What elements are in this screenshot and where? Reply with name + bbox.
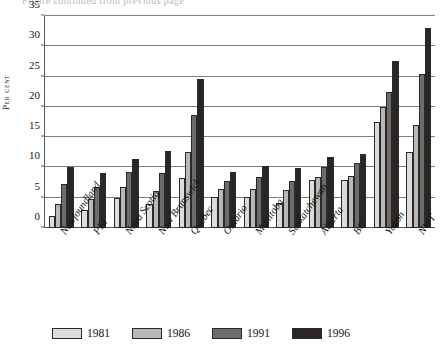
legend-swatch-1996 xyxy=(292,328,322,339)
plot-area: 05101520253035 xyxy=(44,16,434,228)
legend-label-1991: 1991 xyxy=(247,327,270,339)
bars-layer xyxy=(45,16,435,228)
legend-item-1981[interactable]: 1981 xyxy=(52,327,110,339)
bar-group xyxy=(208,16,241,228)
bar[interactable] xyxy=(425,28,431,228)
legend-swatch-1981 xyxy=(52,328,82,339)
clipped-caption-text: Figure continued from previous page xyxy=(22,0,184,6)
x-axis-labels: NewfoundlandPEINova ScotiaNew BrunswickQ… xyxy=(44,230,434,310)
bar-group xyxy=(45,16,78,228)
y-tick-label-35: 35 xyxy=(29,0,40,10)
bar-group xyxy=(338,16,371,228)
legend-label-1981: 1981 xyxy=(87,327,110,339)
legend-swatch-1986 xyxy=(132,328,162,339)
y-tick-label-0: 0 xyxy=(35,210,41,222)
y-tick-label-10: 10 xyxy=(29,149,40,161)
y-tick-label-20: 20 xyxy=(29,89,40,101)
figure-container: Figure continued from previous page Per … xyxy=(0,0,447,355)
legend-item-1986[interactable]: 1986 xyxy=(132,327,190,339)
legend-item-1991[interactable]: 1991 xyxy=(212,327,270,339)
bar-group xyxy=(110,16,143,228)
legend-swatch-1991 xyxy=(212,328,242,339)
y-tick-label-25: 25 xyxy=(29,59,40,71)
y-axis-title: Per cent xyxy=(1,40,11,110)
legend-label-1986: 1986 xyxy=(167,327,190,339)
bar[interactable] xyxy=(360,154,366,228)
bar-group xyxy=(370,16,403,228)
y-tick-label-5: 5 xyxy=(35,180,41,192)
y-tick-label-30: 30 xyxy=(29,28,40,40)
legend-label-1996: 1996 xyxy=(327,327,350,339)
bar[interactable] xyxy=(197,79,203,228)
chart-legend: 1981198619911996 xyxy=(52,327,364,339)
bar[interactable] xyxy=(392,61,398,228)
bar-group xyxy=(240,16,273,228)
legend-item-1996[interactable]: 1996 xyxy=(292,327,350,339)
bar-group xyxy=(403,16,436,228)
clipped-caption-strip: Figure continued from previous page xyxy=(0,0,447,9)
y-tick-label-15: 15 xyxy=(29,119,40,131)
